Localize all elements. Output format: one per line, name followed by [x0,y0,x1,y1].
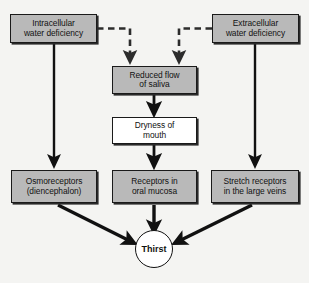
node-receptors-in-oral-mucosa[interactable]: Receptors in oral mucosa [112,170,197,203]
node-reduced-flow-of-saliva[interactable]: Reduced flow of saliva [112,66,197,94]
node-label: Dryness of mouth [135,121,175,140]
node-label: Intracellular water deficiency [24,19,83,38]
node-osmoreceptors[interactable]: Osmoreceptors (diencephalon) [11,170,97,203]
node-label: Osmoreceptors (diencephalon) [26,177,83,196]
node-stretch-receptors[interactable]: Stretch receptors in the large veins [211,170,299,203]
node-label: Extracellular water deficiency [226,19,285,38]
edge-stretch-to-thirst [179,205,252,241]
node-label: Stretch receptors in the large veins [224,177,287,196]
edge-intracellular-to-saliva [97,29,130,58]
node-label: Thirst [141,244,166,254]
node-label: Reduced flow of saliva [129,71,179,90]
edge-extracellular-to-saliva [179,29,212,58]
node-dryness-of-mouth[interactable]: Dryness of mouth [112,117,197,144]
diagram-canvas: Intracellular water deficiency Extracell… [0,0,309,283]
node-thirst[interactable]: Thirst [135,230,173,268]
node-label: Receptors in oral mucosa [131,177,177,196]
node-intracellular-water-deficiency[interactable]: Intracellular water deficiency [10,14,97,43]
node-extracellular-water-deficiency[interactable]: Extracellular water deficiency [212,14,299,43]
edge-osmoreceptors-to-thirst [58,205,130,241]
